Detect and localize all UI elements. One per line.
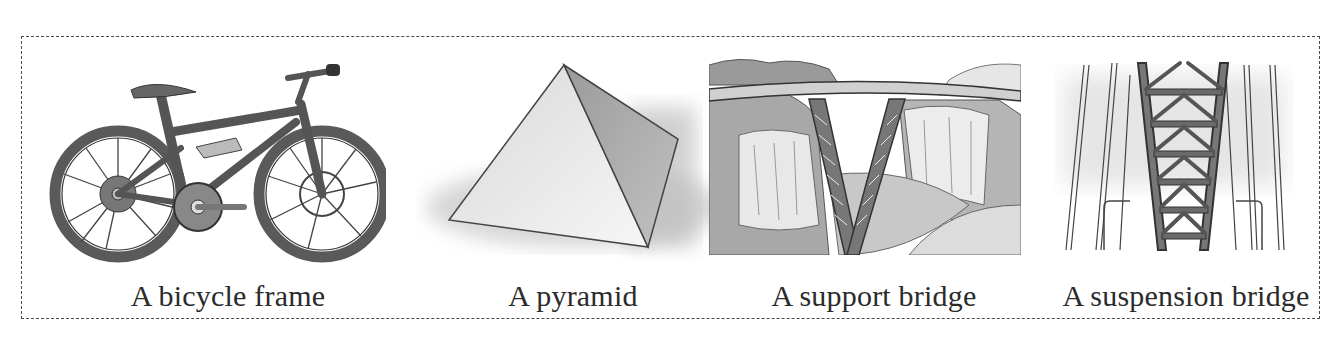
caption-suspension-bridge: A suspension bridge: [1062, 279, 1309, 313]
caption-pyramid: A pyramid: [508, 279, 637, 313]
suspension-bridge-illustration: [1054, 55, 1294, 255]
caption-support-bridge: A support bridge: [772, 279, 977, 313]
support-bridge-illustration: [709, 55, 1021, 255]
bicycle-illustration: [46, 52, 386, 267]
caption-bicycle-frame: A bicycle frame: [131, 279, 326, 313]
figure-frame: A bicycle frame A pyramid: [21, 36, 1320, 319]
pyramid-illustration: [416, 47, 716, 267]
